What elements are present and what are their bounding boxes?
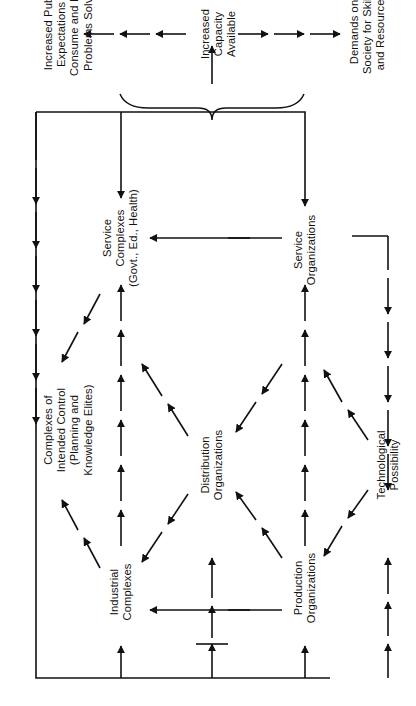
diagram-frame: Juncture of Causal Knowledge (If cause/e… bbox=[0, 0, 416, 706]
node-increased-public-expectations: Increased Public Expectations to Consume… bbox=[42, 0, 95, 110]
node-service-organizations: Service Organizations bbox=[292, 194, 318, 306]
node-technological-possibility: Technological Possibility bbox=[375, 408, 401, 522]
node-increased-capacity-available: Increased Capacity Available bbox=[199, 0, 239, 86]
node-distribution-organizations: Distribution Organizations bbox=[199, 408, 225, 522]
node-industrial-complexes: Industrial Complexes bbox=[108, 544, 134, 640]
node-complexes-of-intended-control: Complexes of Intended Control (Planning … bbox=[42, 350, 95, 510]
node-demands-on-society: Demands on Society for Skills and Resour… bbox=[348, 0, 388, 106]
node-service-complexes: Service Complexes (Govt., Ed., Health) bbox=[101, 180, 141, 296]
node-production-organizations: Production Organizations bbox=[292, 532, 318, 644]
diagram-canvas: Juncture of Causal Knowledge (If cause/e… bbox=[0, 0, 416, 706]
